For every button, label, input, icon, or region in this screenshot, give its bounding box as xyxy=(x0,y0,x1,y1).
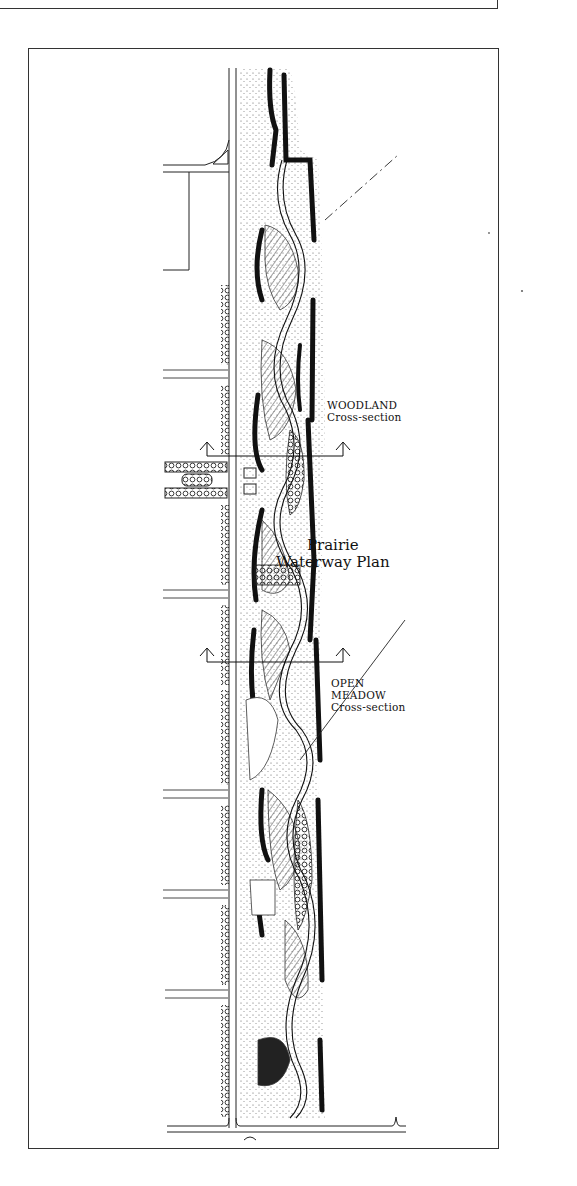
figure-title-line2: Waterway Plan xyxy=(276,554,390,571)
meadow-label-line3: Cross-section xyxy=(331,701,405,713)
waterway-plan-drawing xyxy=(0,0,577,1186)
bottom-road xyxy=(167,1117,406,1140)
main-road xyxy=(229,68,236,1128)
figure-title-line1: Prairie xyxy=(276,537,390,554)
woodland-label-line2: Cross-section xyxy=(327,411,401,423)
meadow-label-line1: OPEN xyxy=(331,677,405,689)
top-intersection xyxy=(163,140,229,270)
open-meadow-cross-section-label: OPEN MEADOW Cross-section xyxy=(331,677,405,713)
figure-title: Prairie Waterway Plan xyxy=(276,537,390,572)
woodland-cross-section-label: WOODLAND Cross-section xyxy=(327,399,401,423)
street-tree-rows xyxy=(221,285,229,1117)
woodland-label-line1: WOODLAND xyxy=(327,399,401,411)
specks xyxy=(488,232,523,292)
meadow-label-line2: MEADOW xyxy=(331,689,405,701)
